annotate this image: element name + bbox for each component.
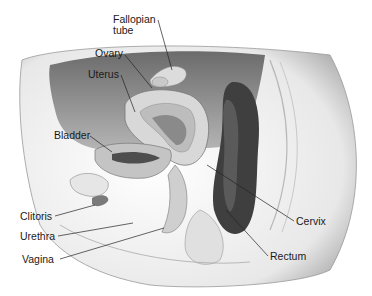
label-ovary: Ovary: [95, 48, 123, 59]
label-urethra: Urethra: [20, 231, 55, 242]
label-uterus: Uterus: [88, 69, 119, 80]
anatomy-diagram: Fallopian tube Ovary Uterus Bladder Clit…: [0, 0, 372, 296]
label-clitoris: Clitoris: [20, 211, 52, 222]
label-bladder: Bladder: [54, 130, 90, 141]
label-fallopian-tube: Fallopian tube: [113, 14, 156, 36]
label-rectum: Rectum: [270, 251, 306, 262]
label-cervix: Cervix: [296, 216, 326, 227]
label-fallopian-tube-line2: tube: [113, 25, 156, 36]
anatomy-illustration: [0, 0, 372, 296]
label-vagina: Vagina: [22, 254, 54, 265]
